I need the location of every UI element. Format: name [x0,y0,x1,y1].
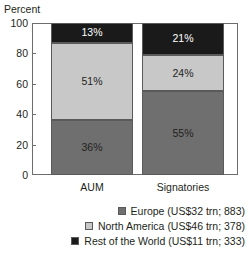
bar-segment-label: 51% [81,76,102,87]
bar-segment-label: 36% [81,142,102,153]
x-tick-label: Signatories [157,181,210,193]
legend-label: Europe (US$32 trn; 883) [131,205,245,217]
legend-item[interactable]: Europe (US$32 trn; 883) [0,203,245,218]
legend-item[interactable]: North America (US$46 trn; 378) [0,218,245,233]
legend-item[interactable]: Rest of the World (US$11 trn; 333) [0,233,245,248]
stacked-bar-chart: Percent 100806040200 36%51%13%55%24%21% … [0,0,249,256]
bar-segment-label: 21% [172,33,193,44]
bar-segment[interactable]: 21% [142,23,224,55]
bar-segment-label: 24% [172,68,193,79]
bar-segment[interactable]: 55% [142,91,224,175]
bar-segment[interactable]: 24% [142,55,224,91]
legend-label: Rest of the World (US$11 trn; 333) [84,235,245,247]
bar-segment[interactable]: 13% [51,23,133,43]
legend-label: North America (US$46 trn; 378) [98,220,245,232]
bar-signatories[interactable]: 55%24%21% [142,23,224,175]
legend-swatch-icon [85,222,93,230]
bar-segment-label: 55% [172,128,193,139]
legend-swatch-icon [71,237,79,245]
bar-segment[interactable]: 36% [51,120,133,175]
bar-segment[interactable]: 51% [51,43,133,121]
bar-aum[interactable]: 36%51%13% [51,23,133,175]
legend: Europe (US$32 trn; 883)North America (US… [0,203,245,248]
bar-segment-label: 13% [81,27,102,38]
x-tick-label: AUM [80,181,103,193]
legend-swatch-icon [118,207,126,215]
